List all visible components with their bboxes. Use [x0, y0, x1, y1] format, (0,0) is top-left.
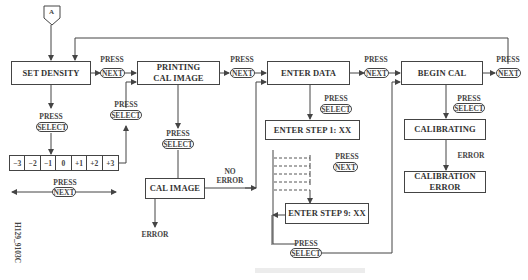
- calibration-error-box: CALIBRATION ERROR: [404, 171, 486, 193]
- next-key: NEXT: [496, 68, 521, 78]
- enter-data-label: ENTER DATA: [281, 68, 336, 79]
- press-label: PRESS: [227, 55, 257, 64]
- select-key: SELECT: [290, 248, 322, 258]
- next-key: NEXT: [364, 68, 389, 78]
- select-key: SELECT: [110, 110, 142, 120]
- error-label: ERROR: [138, 230, 172, 239]
- density-scale: −3 −2 −1 0 +1 +2 +3: [9, 155, 119, 171]
- density-cell: −3: [10, 156, 25, 170]
- connector-label: A: [43, 8, 60, 17]
- calibrating-label: CALIBRATING: [414, 124, 475, 135]
- enter-step-1-label: ENTER STEP 1: XX: [274, 125, 351, 136]
- begin-cal-label: BEGIN CAL: [418, 68, 466, 79]
- press-label: PRESS: [36, 112, 66, 121]
- flowchart: A SET DENSITY PRINTING CAL IMAGE ENTER D…: [0, 0, 528, 280]
- faint-caption: [255, 268, 365, 273]
- density-cell: −2: [25, 156, 40, 170]
- density-cell: 0: [56, 156, 71, 170]
- press-label: PRESS: [361, 55, 391, 64]
- density-cell: −1: [41, 156, 56, 170]
- flow-lines: [0, 0, 528, 280]
- density-cell: +1: [72, 156, 87, 170]
- begin-cal-box: BEGIN CAL: [401, 61, 483, 85]
- printing-cal-image-box: PRINTING CAL IMAGE: [137, 61, 220, 85]
- select-key: SELECT: [453, 103, 485, 113]
- printing-cal-image-label: PRINTING CAL IMAGE: [153, 62, 203, 84]
- next-key: NEXT: [100, 68, 125, 78]
- press-label: PRESS: [291, 239, 321, 248]
- press-label: PRESS: [321, 94, 351, 103]
- calibration-error-label: CALIBRATION ERROR: [405, 171, 485, 193]
- set-density-box: SET DENSITY: [11, 61, 91, 85]
- cal-image-label: CAL IMAGE: [150, 183, 200, 194]
- select-key: SELECT: [162, 139, 194, 149]
- next-key: NEXT: [333, 162, 358, 172]
- select-key: SELECT: [36, 122, 68, 132]
- enter-step-1-box: ENTER STEP 1: XX: [265, 120, 360, 140]
- calibrating-box: CALIBRATING: [404, 119, 486, 140]
- cal-image-box: CAL IMAGE: [145, 178, 205, 199]
- press-label: PRESS: [97, 55, 127, 64]
- next-key: NEXT: [230, 68, 255, 78]
- enter-step-9-label: ENTER STEP 9: XX: [288, 208, 365, 219]
- enter-data-box: ENTER DATA: [267, 61, 350, 85]
- press-label: PRESS: [111, 100, 141, 109]
- press-label: PRESS: [163, 129, 193, 138]
- press-label: PRESS: [493, 55, 523, 64]
- set-density-label: SET DENSITY: [23, 68, 80, 79]
- density-cell: +2: [87, 156, 102, 170]
- density-cell: +3: [103, 156, 118, 170]
- error-label: ERROR: [454, 151, 488, 160]
- press-label: PRESS: [50, 178, 80, 187]
- figure-id: H129_9103C: [13, 222, 22, 263]
- no-error-label: NO ERROR: [212, 167, 248, 185]
- enter-step-9-box: ENTER STEP 9: XX: [285, 203, 369, 224]
- press-label: PRESS: [454, 94, 484, 103]
- next-key: NEXT: [52, 187, 76, 197]
- select-key: SELECT: [320, 104, 352, 114]
- press-label: PRESS: [332, 152, 362, 161]
